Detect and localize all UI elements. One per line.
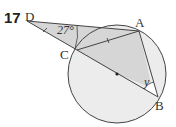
geometry-figure: 17 D A C B 27° y xyxy=(0,0,176,127)
point-label-A: A xyxy=(135,15,144,31)
angle-label-y: y xyxy=(144,75,149,90)
angle-label-D: 27° xyxy=(57,23,74,38)
point-label-D: D xyxy=(25,9,34,25)
problem-number: 17 xyxy=(4,9,21,26)
center-dot xyxy=(115,72,118,75)
point-label-C: C xyxy=(60,47,69,63)
point-label-B: B xyxy=(155,98,164,114)
